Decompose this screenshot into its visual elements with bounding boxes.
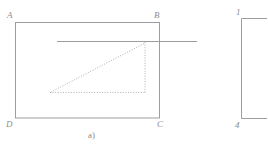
- figure-drawing-canvas: [0, 0, 267, 144]
- vertex-label-b: B: [154, 11, 160, 20]
- vertex-label-right-bottom: 4: [235, 121, 240, 130]
- triangle-hypotenuse: [51, 43, 145, 92]
- rectangle-abcd: [16, 23, 160, 119]
- vertex-label-d: D: [6, 120, 13, 129]
- partial-rectangle-right: [242, 19, 268, 119]
- figure-caption: a): [88, 131, 95, 140]
- vertex-label-a: A: [7, 11, 13, 20]
- figure-container: A B C D 1 4 a): [0, 0, 267, 144]
- vertex-label-right-top: 1: [236, 8, 241, 17]
- vertex-label-c: C: [157, 120, 163, 129]
